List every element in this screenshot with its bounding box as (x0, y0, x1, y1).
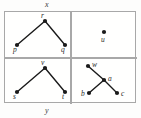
panel-bottom-right: wabc (71, 58, 137, 104)
graph-node-label: r (41, 12, 44, 20)
graph-node-label: w (92, 61, 97, 69)
graph-node-label: t (62, 93, 64, 101)
panel-top-right: u (71, 12, 137, 57)
graph-node (87, 91, 91, 95)
graph-node-label: v (41, 59, 44, 67)
top-axis-label: x (45, 0, 49, 9)
graph-node (86, 64, 90, 68)
graph-node-label: a (108, 75, 112, 83)
graph-figure: x rpq u vst wabc y (0, 0, 141, 118)
graph-node-label: c (121, 90, 124, 98)
graph-edge (45, 68, 65, 92)
graph-node (102, 30, 106, 34)
panel-bottom-left: vst (5, 58, 70, 104)
graph-node-label: u (101, 36, 105, 44)
bottom-axis-label: y (45, 106, 49, 115)
graph-node-label: q (61, 46, 65, 54)
graph-edge (89, 80, 104, 93)
graph-node-label: p (13, 46, 17, 54)
graph-edge (45, 21, 65, 45)
graph-node (102, 78, 106, 82)
graph-edge (17, 21, 45, 45)
graph-node-label: s (13, 93, 16, 101)
graph-node-label: b (81, 90, 85, 98)
panel-top-left: rpq (5, 12, 70, 57)
graph-node (115, 91, 119, 95)
panel-grid: rpq u vst wabc (4, 11, 136, 103)
graph-edge (17, 68, 45, 92)
